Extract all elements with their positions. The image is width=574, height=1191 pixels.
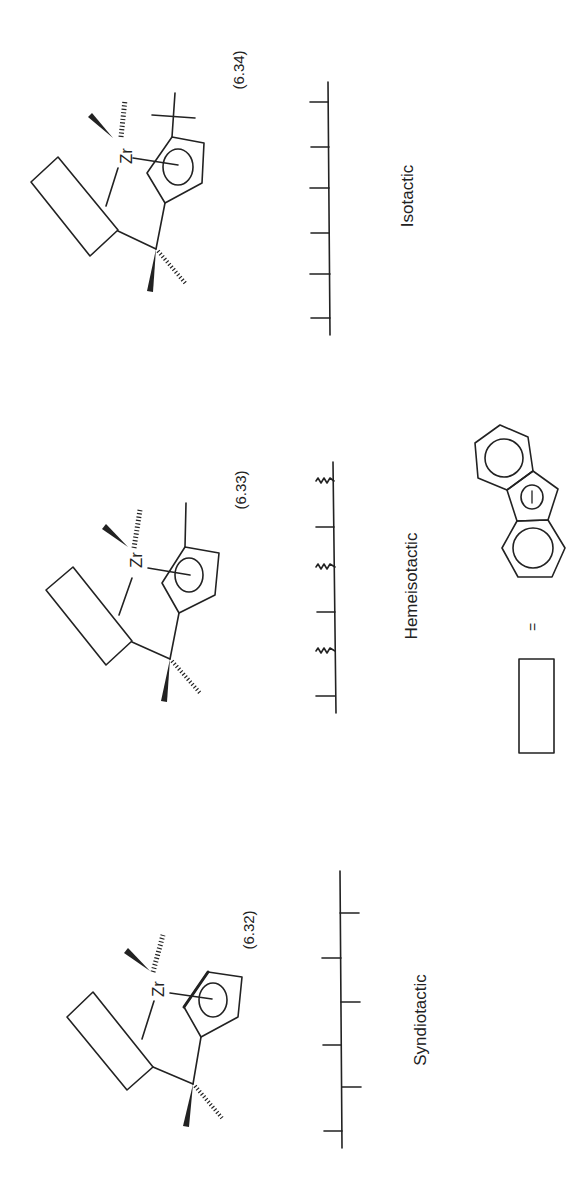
wedge-bond-icon — [147, 249, 156, 292]
rectangle-symbol-icon — [519, 659, 554, 753]
catalyst-6-34: Zr (6.34) — [31, 50, 247, 292]
cyclopentadienyl-ring-icon — [147, 137, 204, 203]
fluorenyl-rectangle-icon — [31, 157, 118, 256]
fluorenyl-top-benzene-icon — [475, 425, 533, 490]
cyclopentadienyl-ring-icon — [162, 547, 219, 613]
zirconium-atom: Zr — [117, 148, 136, 164]
equation-number-6-32: (6.32) — [240, 910, 257, 949]
label-hemeisotactic: Hemeisotactic — [402, 532, 421, 639]
wavy-bond-icon — [316, 478, 334, 483]
fluorenyl-rectangle-icon — [46, 567, 132, 665]
catalyst-6-32: Zr (6.32) — [67, 910, 257, 1127]
label-isotactic: Isotactic — [398, 164, 417, 227]
tacticity-figure: Zr (6.34) Isotactic Zr (6.33) — [0, 0, 574, 1191]
zirconium-atom: Zr — [127, 552, 146, 568]
fluorenyl-rectangle-icon — [67, 992, 153, 1090]
polymer-chain-isotactic — [310, 82, 330, 335]
label-syndiotactic: Syndiotactic — [411, 974, 430, 1066]
equation-number-6-34: (6.34) — [230, 50, 247, 89]
polymer-chain-hemeisotactic — [316, 462, 336, 713]
cyclopentadienyl-ring-icon — [184, 972, 242, 1037]
hashed-bond-icon — [158, 251, 186, 284]
catalyst-6-33: Zr (6.33) — [46, 470, 249, 702]
fluorenyl-legend: = — [475, 425, 565, 753]
polymer-chain-syndiotactic — [322, 871, 361, 1148]
equation-number-6-33: (6.33) — [232, 470, 249, 509]
equals-sign: = — [525, 623, 541, 631]
zirconium-atom: Zr — [149, 981, 168, 997]
